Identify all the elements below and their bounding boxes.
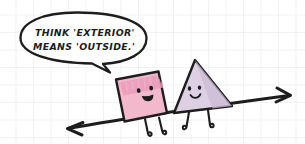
square-leg-right — [159, 118, 166, 135]
square-legs — [145, 118, 166, 136]
speech-bubble-line-1: THINK 'EXTERIOR' — [35, 27, 135, 38]
triangle-eye-left — [188, 86, 191, 90]
triangle-leg-right — [208, 110, 214, 127]
speech-bubble-line-2: MEANS 'OUTSIDE.' — [33, 41, 135, 52]
cartoon-illustration: THINK 'EXTERIOR' MEANS 'OUTSIDE.' — [0, 0, 305, 144]
triangle-legs — [183, 110, 214, 129]
square-character — [116, 72, 167, 136]
triangle-eye-right — [198, 85, 201, 89]
speech-bubble: THINK 'EXTERIOR' MEANS 'OUTSIDE.' — [21, 13, 147, 73]
triangle-leg-left — [183, 112, 189, 129]
triangle-character — [174, 60, 232, 129]
square-leg-left — [145, 119, 152, 136]
illustration-canvas: THINK 'EXTERIOR' MEANS 'OUTSIDE.' — [0, 0, 305, 144]
